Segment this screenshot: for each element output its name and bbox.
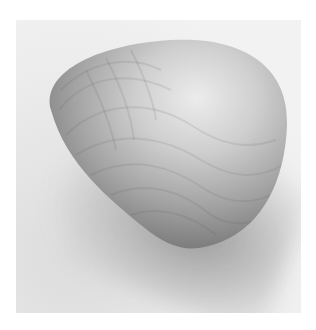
stone-object (31, 30, 293, 260)
photo (16, 20, 301, 313)
